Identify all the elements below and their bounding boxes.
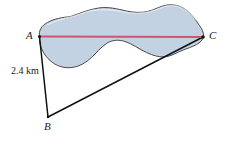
- vertex-dot-a: [38, 35, 41, 38]
- vertex-dot-b: [47, 116, 49, 118]
- vertex-dot-c: [201, 35, 205, 39]
- segment-ac-measure-line: [40, 37, 204, 38]
- distance-label-ab: 2.4 km: [11, 66, 39, 76]
- vertex-label-b: B: [44, 121, 51, 132]
- vertex-label-c: C: [209, 30, 216, 41]
- vertex-label-a: A: [26, 30, 33, 41]
- geometry-figure: A B C 2.4 km: [0, 0, 227, 144]
